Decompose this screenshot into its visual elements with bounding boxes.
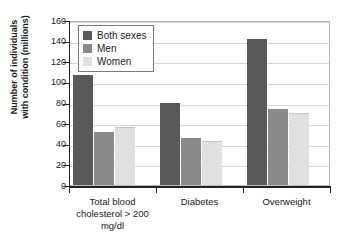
y-axis-line [69, 21, 70, 187]
y-tick-mark [63, 62, 69, 63]
x-axis-line [69, 186, 331, 188]
y-tick-label: 40 [26, 140, 66, 149]
x-tick-mark [69, 186, 70, 193]
y-tick-mark [63, 165, 69, 166]
x-group-label: Diabetes [156, 196, 243, 208]
y-tick-mark [63, 104, 69, 105]
gridline [70, 105, 329, 106]
x-tick-mark [330, 186, 331, 193]
y-tick-mark [63, 42, 69, 43]
bar [73, 75, 93, 185]
y-tick-label: 20 [26, 161, 66, 170]
x-group-label-line: Overweight [243, 196, 330, 208]
y-tick-mark [63, 83, 69, 84]
x-group-label-line: Total blood [69, 196, 156, 208]
legend-label-both-sexes: Both sexes [97, 30, 146, 41]
legend-swatch-men [83, 44, 92, 53]
bar [268, 109, 288, 185]
gridline [70, 84, 329, 85]
y-axis-title-line-1: Number of individuals [9, 0, 20, 147]
bar [202, 141, 222, 185]
legend-label-women: Women [97, 56, 131, 67]
y-tick-mark [63, 124, 69, 125]
x-group-label: Overweight [243, 196, 330, 208]
legend-item-men: Men [83, 42, 146, 55]
x-tick-mark [156, 186, 157, 193]
y-tick-label: 160 [26, 17, 66, 26]
legend: Both sexes Men Women [78, 25, 154, 72]
bar [160, 103, 180, 186]
gridline [70, 22, 329, 23]
x-group-label: Total bloodcholesterol > 200mg/dl [69, 196, 156, 232]
bar [181, 138, 201, 185]
y-tick-label: 80 [26, 99, 66, 108]
x-group-label-line: mg/dl [69, 220, 156, 232]
y-tick-label: 120 [26, 58, 66, 67]
y-tick-label: 0 [26, 182, 66, 191]
legend-label-men: Men [97, 43, 116, 54]
x-group-label-line: Diabetes [156, 196, 243, 208]
legend-item-women: Women [83, 55, 146, 68]
bar [115, 127, 135, 185]
x-group-label-line: cholesterol > 200 [69, 208, 156, 220]
y-tick-label: 60 [26, 120, 66, 129]
x-tick-mark [243, 186, 244, 193]
y-tick-label: 100 [26, 78, 66, 87]
y-tick-mark [63, 21, 69, 22]
bar [94, 132, 114, 185]
bar-chart: Number of individuals with condition (mi… [0, 0, 349, 240]
bar [289, 113, 309, 185]
legend-swatch-women [83, 57, 92, 66]
y-tick-label: 140 [26, 37, 66, 46]
legend-item-both-sexes: Both sexes [83, 29, 146, 42]
legend-swatch-both-sexes [83, 31, 92, 40]
y-tick-mark [63, 145, 69, 146]
bar [247, 39, 267, 185]
